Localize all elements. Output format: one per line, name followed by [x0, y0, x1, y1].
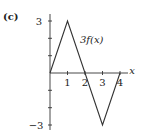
x-tick-label-2: 2	[82, 77, 88, 88]
series-label: 3f(x)	[80, 34, 104, 45]
x-tick-label-1: 1	[64, 77, 70, 88]
x-tick-label-4: 4	[117, 77, 123, 88]
y-tick-label-neg3: −3	[29, 120, 44, 131]
x-axis-label: x	[129, 65, 135, 76]
x-tick-label-3: 3	[99, 77, 105, 88]
y-tick-label-3: 3	[36, 16, 42, 27]
function-plot: 3 −3 1 2 3 4 x 3f(x)	[0, 0, 143, 137]
